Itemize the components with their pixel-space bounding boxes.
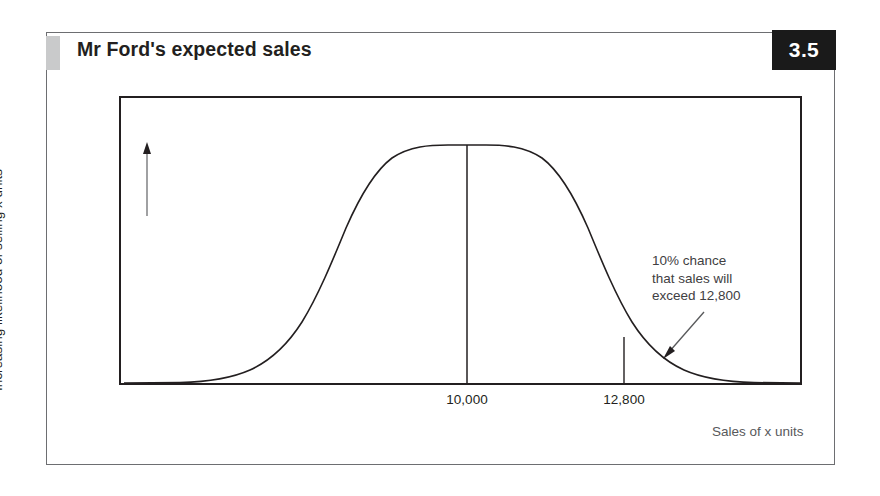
x-tick-label-12800: 12,800 — [603, 392, 644, 407]
plot-area — [119, 96, 802, 385]
annotation-line-2: that sales will — [652, 270, 741, 288]
x-axis-title: Sales of x units — [712, 424, 804, 439]
annotation-line-1: 10% chance — [652, 252, 741, 270]
page-title: Mr Ford's expected sales — [77, 38, 312, 61]
annotation-line-3: exceed 12,800 — [652, 287, 741, 305]
y-axis-title: Increasing likelihood of selling x units — [0, 130, 5, 430]
figure-container: Mr Ford's expected sales 3.5 Increasing … — [0, 0, 880, 496]
figure-number-badge: 3.5 — [772, 30, 836, 70]
tail-probability-annotation: 10% chance that sales will exceed 12,800 — [652, 252, 741, 305]
x-tick-label-10000: 10,000 — [446, 392, 487, 407]
title-marker — [46, 36, 60, 70]
